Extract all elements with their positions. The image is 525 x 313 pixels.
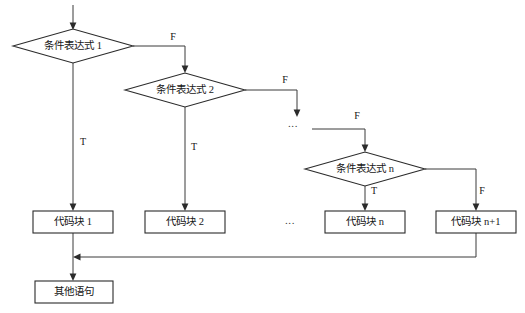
process-block-n-plus-1-label: 代码块 n+1	[451, 216, 500, 227]
arrowhead-cond1-false	[182, 66, 189, 74]
branch-label-f-cond1: F	[170, 31, 176, 42]
edge-ellipsis-to-condn	[312, 129, 365, 147]
process-block-2[interactable]: 代码块 2	[145, 211, 225, 233]
edge-cond2-false	[245, 90, 297, 112]
decision-cond-2-label: 条件表达式 2	[156, 83, 214, 95]
decision-layer: 条件表达式 1 条件表达式 2 条件表达式 n	[13, 29, 425, 186]
flowchart-canvas: 条件表达式 1 条件表达式 2 条件表达式 n 代码块 1 代码块 2	[0, 0, 525, 313]
arrowhead-condn-false	[473, 204, 480, 212]
branch-label-t-cond2: T	[191, 141, 197, 152]
arrowhead-cond1-true	[70, 204, 77, 212]
process-block-2-label: 代码块 2	[166, 216, 204, 227]
arrowhead-cond2-true	[182, 204, 189, 212]
branch-label-f-middle: F	[354, 110, 360, 121]
branch-label-t-condn: T	[371, 185, 377, 196]
process-block-end[interactable]: 其他语句	[35, 281, 113, 303]
ellipsis-top-label: ...	[288, 117, 298, 129]
branch-label-f-cond2: F	[282, 74, 288, 85]
ellipsis-layer: ... ...	[285, 117, 298, 226]
flowchart-diagram: 条件表达式 1 条件表达式 2 条件表达式 n 代码块 1 代码块 2	[0, 0, 525, 313]
decision-cond-n-label: 条件表达式 n	[336, 162, 395, 174]
arrowhead-merge-bus	[73, 254, 81, 261]
branch-label-t-cond1: T	[80, 136, 86, 147]
decision-cond-n[interactable]: 条件表达式 n	[305, 152, 425, 186]
process-block-end-label: 其他语句	[54, 285, 94, 297]
arrowhead-condn-true	[362, 204, 369, 212]
decision-cond-1[interactable]: 条件表达式 1	[13, 29, 133, 63]
branch-label-f-condn: F	[479, 185, 485, 196]
decision-cond-2[interactable]: 条件表达式 2	[125, 73, 245, 107]
branch-label-layer: F T F T F T F	[80, 31, 485, 196]
edge-merge-bus	[78, 233, 476, 257]
process-block-n-label: 代码块 n	[346, 216, 385, 227]
process-block-1[interactable]: 代码块 1	[33, 211, 113, 233]
arrowhead-end	[70, 274, 77, 282]
edge-condn-false	[425, 169, 476, 206]
decision-cond-1-label: 条件表达式 1	[44, 39, 102, 51]
arrowhead-condn-in	[362, 145, 369, 153]
process-block-n[interactable]: 代码块 n	[325, 211, 405, 233]
process-block-n-plus-1[interactable]: 代码块 n+1	[436, 211, 516, 233]
process-block-1-label: 代码块 1	[54, 216, 92, 227]
ellipsis-bottom-label: ...	[285, 214, 295, 226]
edge-cond1-false	[133, 46, 185, 68]
